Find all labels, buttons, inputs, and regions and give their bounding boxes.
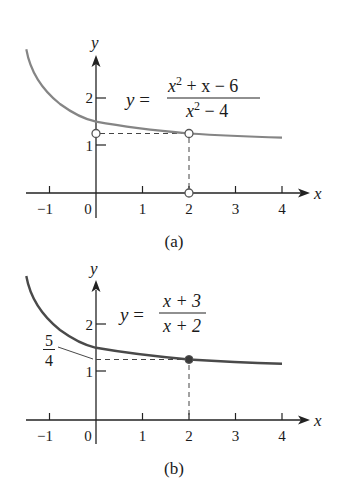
open-circle-marker: [92, 130, 100, 138]
x-ticks: [50, 413, 283, 420]
equation-lhs: y =: [124, 89, 150, 110]
y-tick-labels: 2 1: [86, 90, 94, 154]
svg-text:4: 4: [45, 352, 53, 369]
y-axis-label: y: [89, 33, 99, 52]
leader-line: [58, 347, 93, 359]
caption-a: (a): [165, 232, 184, 251]
x-tick-label: 0: [84, 428, 92, 444]
equation-b: y = x + 3 x + 2: [118, 291, 206, 336]
y-tick-labels: 2 1: [86, 317, 94, 380]
x-ticks: [50, 186, 283, 193]
equation-denominator: x2 − 4: [185, 99, 228, 121]
svg-text:5: 5: [45, 332, 53, 349]
equation-a: y = x2 + x − 6 x2 − 4: [124, 74, 260, 121]
equation-numerator: x + 3: [162, 291, 201, 311]
dashed-guides: [96, 360, 189, 421]
open-circle-marker: [185, 189, 193, 197]
x-tick-labels: −1 0 1 2 3 4: [37, 201, 286, 217]
x-tick-labels: −1 0 1 2 3 4: [37, 428, 286, 444]
equation-lhs: y =: [118, 304, 144, 325]
x-tick-label: −1: [37, 428, 53, 444]
curve: [26, 49, 282, 137]
x-axis-label: x: [313, 184, 322, 203]
equation-denominator: x + 2: [162, 316, 201, 336]
x-tick-label: −1: [37, 201, 53, 217]
y-axis-label: y: [88, 259, 98, 278]
y-tick-label: 1: [86, 364, 94, 380]
y-tick-label: 2: [86, 317, 94, 333]
figure: x y −1 0 1 2 3 4 2 1: [0, 0, 348, 502]
panel-b: x y −1 0 1 2 3 4 2 1: [26, 259, 322, 478]
x-axis-label: x: [313, 411, 322, 430]
x-tick-label: 1: [139, 428, 147, 444]
x-tick-label: 3: [232, 201, 240, 217]
x-tick-label: 2: [185, 428, 193, 444]
equation-numerator: x2 + x − 6: [167, 74, 238, 96]
open-circle-marker: [185, 130, 193, 138]
curve: [26, 276, 282, 364]
x-tick-label: 0: [84, 201, 92, 217]
dashed-guides: [100, 134, 189, 190]
caption-b: (b): [164, 459, 184, 478]
panel-a: x y −1 0 1 2 3 4 2 1: [26, 33, 322, 251]
y-tick-label: 1: [86, 138, 94, 154]
y-tick-label: 2: [86, 90, 94, 106]
x-tick-label: 1: [139, 201, 147, 217]
filled-circle-marker: [185, 356, 193, 364]
x-tick-label: 4: [278, 201, 286, 217]
x-tick-label: 2: [185, 201, 193, 217]
x-tick-label: 4: [278, 428, 286, 444]
x-tick-label: 3: [232, 428, 240, 444]
